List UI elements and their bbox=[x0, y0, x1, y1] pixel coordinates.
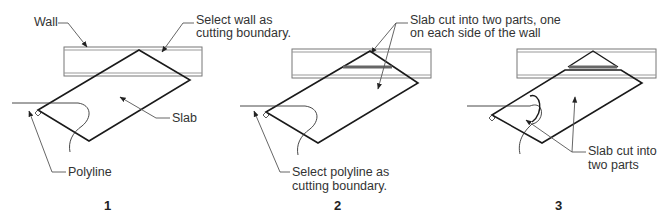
label-wall: Wall bbox=[34, 15, 58, 29]
wall-leader bbox=[58, 23, 87, 47]
panel-1: Wall Select wall as cutting boundary. Sl… bbox=[12, 13, 291, 213]
select-polyline-leader bbox=[254, 111, 290, 172]
panel-3: Slab cut into two parts 3 bbox=[467, 49, 657, 213]
wall bbox=[517, 49, 656, 78]
slab bbox=[38, 50, 190, 141]
polyline-leader bbox=[29, 111, 66, 172]
label-polyline: Polyline bbox=[68, 165, 112, 179]
slab-cut-leader-b bbox=[378, 23, 396, 89]
slab-cut-leader-a bbox=[526, 120, 586, 152]
label-slab: Slab bbox=[172, 111, 197, 125]
wall bbox=[64, 47, 202, 76]
label-slab-cut-2: two parts bbox=[588, 158, 639, 172]
panel-number-1: 1 bbox=[104, 198, 111, 213]
label-select-polyline-2: cutting boundary. bbox=[292, 179, 387, 193]
polyline bbox=[467, 95, 542, 154]
panel-number-3: 3 bbox=[555, 198, 562, 213]
label-slab-cut-1: Slab cut into bbox=[588, 144, 657, 158]
panel-number-2: 2 bbox=[334, 198, 341, 213]
label-select-polyline-1: Select polyline as bbox=[292, 165, 389, 179]
label-select-wall-2: cutting boundary. bbox=[196, 26, 291, 40]
select-wall-leader bbox=[162, 23, 194, 52]
label-slab-cut-2: on each side of the wall bbox=[410, 26, 541, 40]
wall bbox=[292, 49, 431, 78]
label-select-wall-1: Select wall as bbox=[196, 13, 272, 27]
polyline bbox=[240, 106, 317, 155]
label-slab-cut-1: Slab cut into two parts, one bbox=[410, 13, 561, 27]
slab bbox=[266, 51, 418, 143]
polyline bbox=[12, 103, 89, 152]
slab-cutting-diagram: Wall Select wall as cutting boundary. Sl… bbox=[0, 0, 666, 224]
slab-parts bbox=[492, 51, 642, 143]
panel-2: Slab cut into two parts, one on each sid… bbox=[240, 13, 561, 213]
